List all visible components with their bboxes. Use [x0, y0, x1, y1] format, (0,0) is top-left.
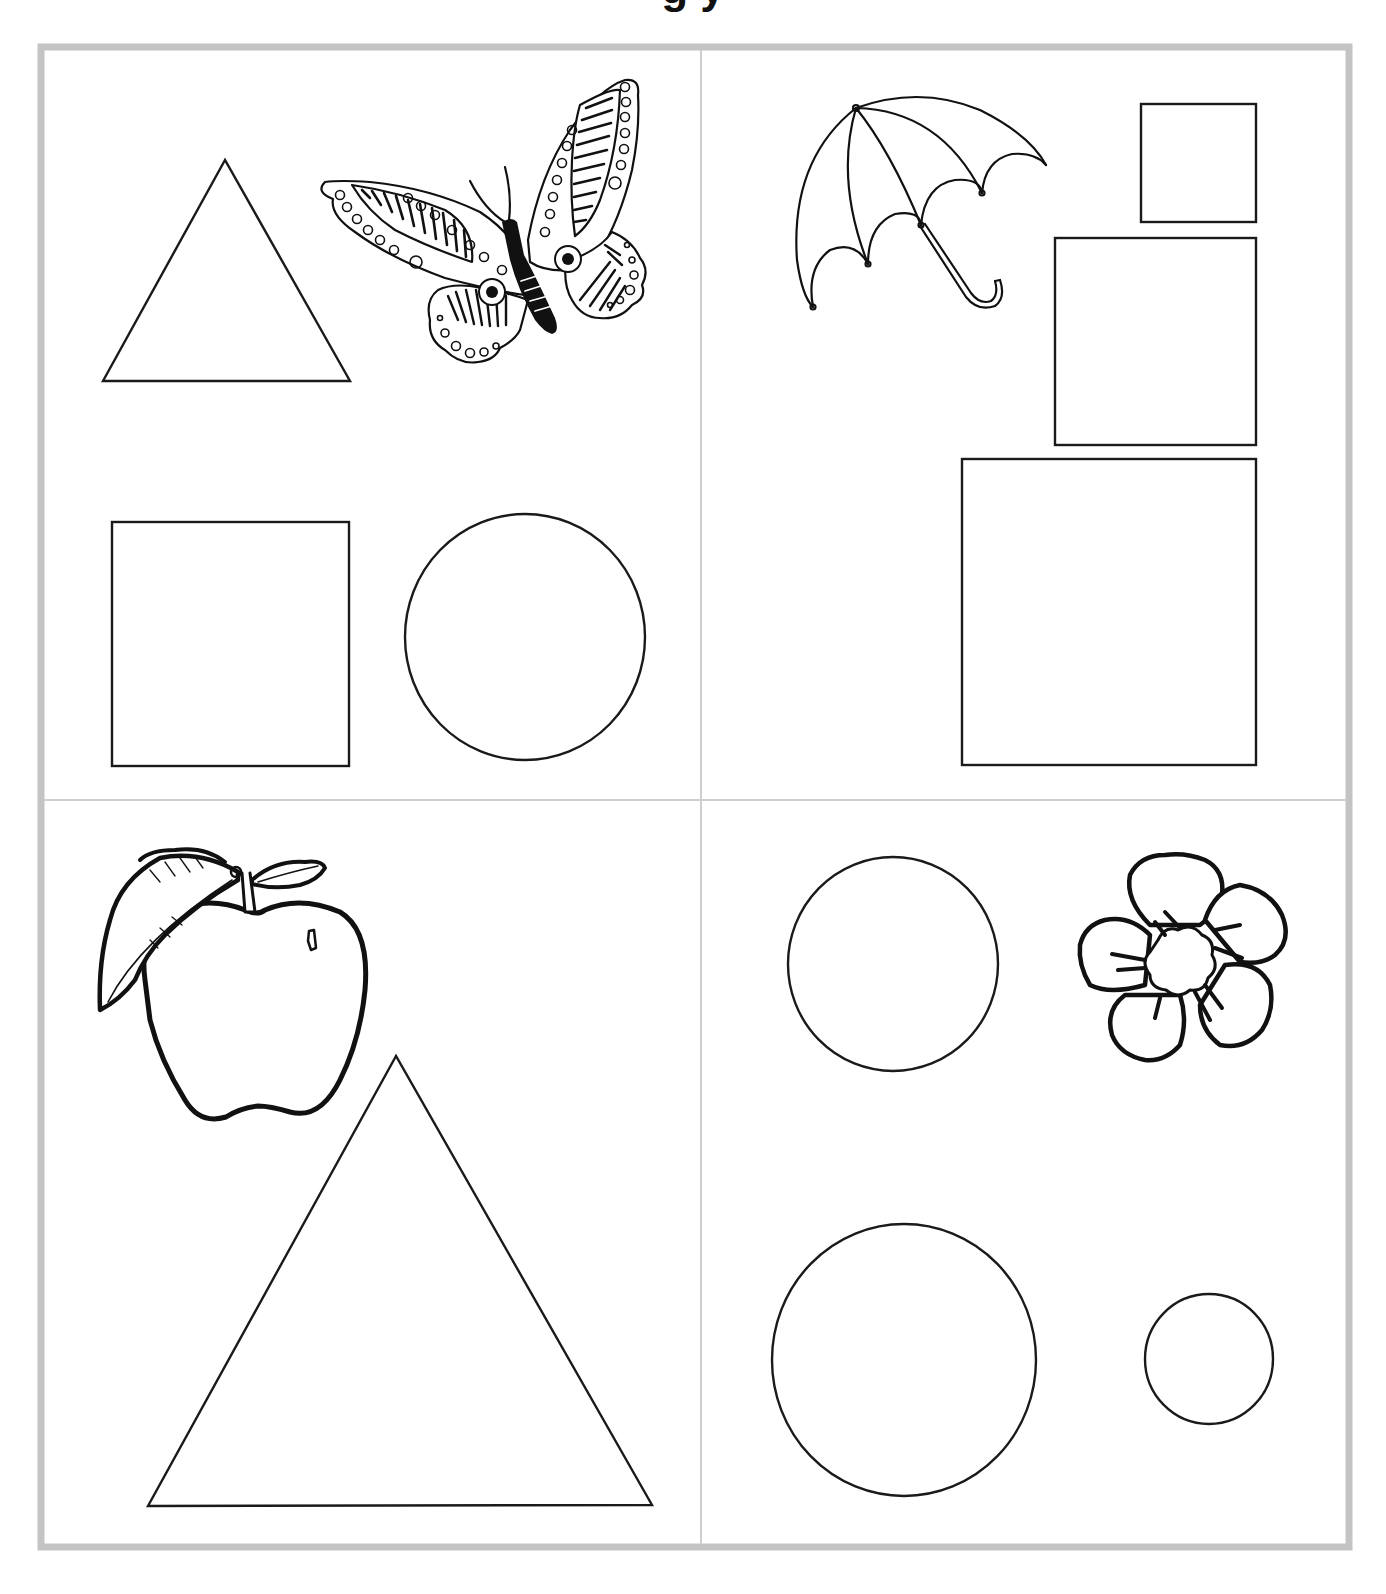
bottom-right-small-circle-outline: [1145, 1294, 1273, 1424]
top-left-circle-outline: [405, 514, 645, 760]
bottom-right-medium-circle-outline: [788, 857, 998, 1071]
top-left-square-outline: [112, 522, 349, 766]
worksheet-canvas: [0, 0, 1386, 1594]
worksheet: g y: [0, 0, 1386, 1594]
top-right-medium-square-outline: [1055, 238, 1256, 445]
flower-icon: [1080, 854, 1286, 1060]
shapes-layer: [103, 104, 1273, 1506]
bottom-left-large-triangle-outline: [148, 1056, 652, 1506]
bottom-right-large-circle-outline: [772, 1224, 1036, 1496]
apple-icon: [100, 849, 366, 1119]
butterfly-icon: [321, 80, 645, 363]
outer-frame: [41, 47, 1349, 1547]
top-right-large-square-outline: [962, 459, 1256, 765]
top-left-triangle-outline: [103, 160, 350, 381]
top-right-small-square-outline: [1141, 104, 1256, 222]
umbrella-icon: [796, 97, 1046, 310]
